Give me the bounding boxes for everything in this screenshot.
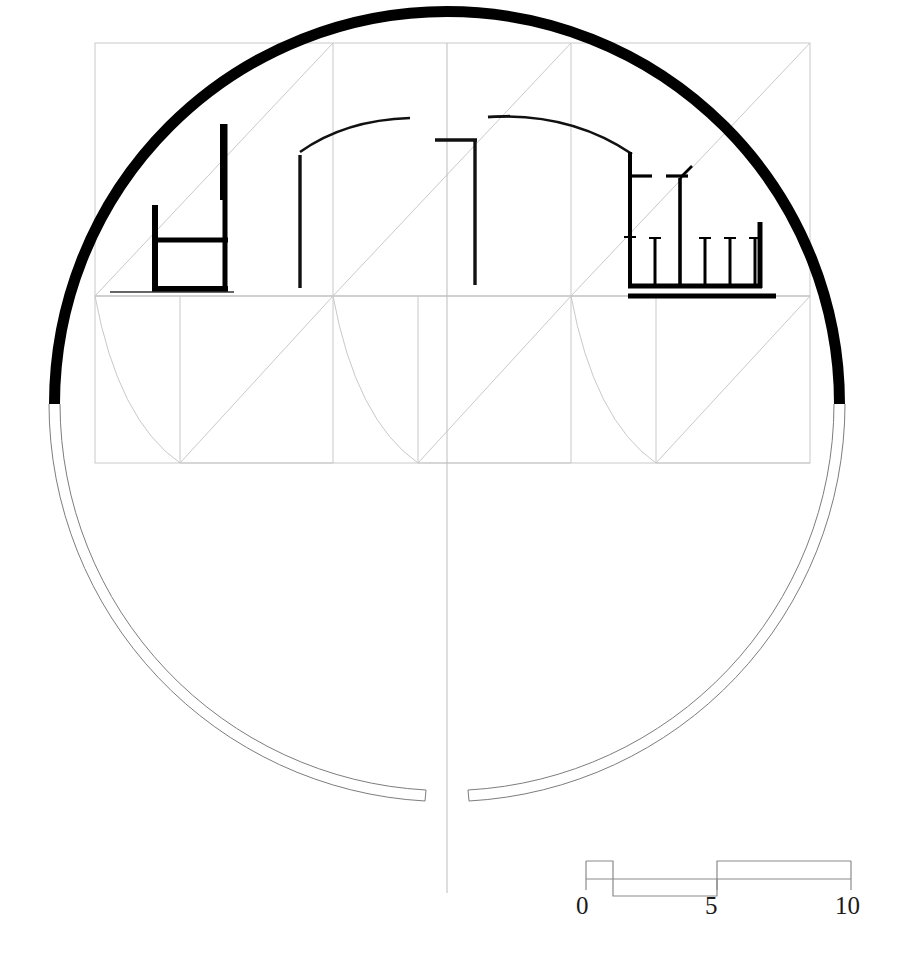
grid-diagonal-l1 [180,296,333,463]
pendentive-curve-3 [571,296,656,463]
drawing-sheet: 0 5 10 [0,0,901,973]
circle-inner-right [468,404,834,790]
pendentive-curve-1 [95,296,180,463]
center-bay-left-arch [300,118,410,152]
grid-diagonal-l3 [656,296,810,463]
circle-inner-left [60,404,426,790]
grid-diagonal-u2 [333,43,571,296]
scale-label-10: 10 [835,893,860,918]
architectural-plan-drawing [0,0,901,973]
center-bay-walls [300,118,477,288]
scale-block-0-1 [586,861,613,879]
scale-block-5-10 [717,861,851,879]
circle-outer-left [49,404,425,801]
scale-block-1-5 [613,879,717,896]
grid-diagonal-u3 [571,43,810,296]
pendentive-curve-2 [333,296,418,463]
nave-segmental-arch [488,116,632,154]
grid-diagonal-l2 [418,296,571,463]
circle-right-cap [468,790,469,801]
circle-left-cap [425,790,426,801]
scale-label-5: 5 [705,893,718,918]
right-apse-colonnade [624,152,776,296]
nave-arch-left-tip [488,116,510,117]
left-chamber-walls [110,124,234,292]
center-right-arch [488,116,632,154]
scale-label-0: 0 [576,893,589,918]
graphic-scale-bar [586,861,851,896]
circle-outer-right [469,404,845,801]
grid-lower-band [95,296,810,463]
